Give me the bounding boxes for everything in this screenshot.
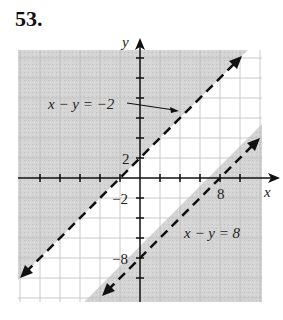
- tick-label-y-neg2: −2: [112, 191, 128, 207]
- graph: y x x − y = −2 x − y = 8 8 2 −2 −8: [0, 0, 283, 320]
- equation-label-1: x − y = −2: [47, 96, 115, 112]
- equation-label-2: x − y = 8: [183, 225, 241, 241]
- tick-label-x-8: 8: [217, 186, 225, 202]
- y-axis-label: y: [120, 34, 129, 50]
- tick-label-y-2: 2: [122, 151, 130, 167]
- tick-label-y-neg8: −8: [112, 251, 128, 267]
- x-axis-label: x: [263, 184, 271, 200]
